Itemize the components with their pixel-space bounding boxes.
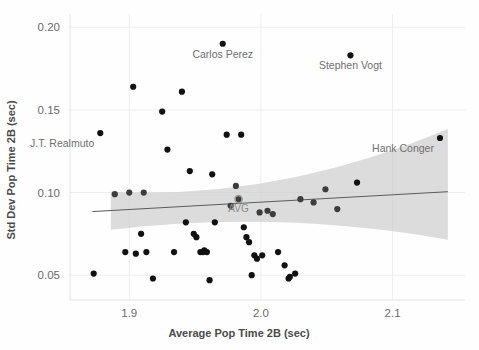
data-point [150, 275, 156, 281]
data-point [292, 270, 298, 276]
y-tick-label: 0.10 [38, 187, 60, 199]
data-point [204, 249, 210, 255]
data-point [143, 249, 149, 255]
data-point [141, 189, 147, 195]
data-point [179, 89, 185, 95]
data-point [257, 209, 263, 215]
y-axis-title: Std Dev Pop Time 2B (sec) [5, 100, 17, 240]
y-tick-label: 0.15 [38, 104, 60, 116]
point-annotation-label: Hank Conger [372, 142, 434, 154]
data-point [287, 274, 293, 280]
data-point [164, 146, 170, 152]
data-point [347, 52, 353, 58]
average-marker-label: AVG [228, 203, 249, 214]
data-point [97, 130, 103, 136]
data-point [437, 135, 443, 141]
data-point [126, 189, 132, 195]
data-point [246, 239, 252, 245]
point-annotation-label: Carlos Perez [192, 48, 253, 60]
x-tick-label: 1.9 [121, 307, 137, 319]
x-tick-label: 2.1 [385, 307, 401, 319]
data-point [354, 180, 360, 186]
point-annotation-label: J.T. Realmuto [30, 137, 94, 149]
x-axis-title: Average Pop Time 2B (sec) [168, 327, 310, 339]
data-point [138, 231, 144, 237]
data-point [233, 183, 239, 189]
data-point [310, 199, 316, 205]
point-labels-group: J.T. RealmutoCarlos PerezStephen VogtHan… [30, 48, 434, 154]
data-point [264, 208, 270, 214]
scatter-chart: AVG J.T. RealmutoCarlos PerezStephen Vog… [0, 0, 479, 350]
data-point [206, 277, 212, 283]
data-point [224, 132, 230, 138]
data-point [159, 108, 165, 114]
data-point [334, 206, 340, 212]
data-point [249, 272, 255, 278]
data-point [241, 224, 247, 230]
data-point [171, 249, 177, 255]
data-point [212, 219, 218, 225]
y-tick-label: 0.05 [38, 269, 60, 281]
data-point [187, 168, 193, 174]
data-point [282, 262, 288, 268]
data-point [238, 132, 244, 138]
point-annotation-label: Stephen Vogt [319, 59, 382, 71]
data-point [183, 219, 189, 225]
data-point [254, 256, 260, 262]
data-point [270, 211, 276, 217]
data-point [122, 249, 128, 255]
data-point [133, 251, 139, 257]
data-point [297, 196, 303, 202]
data-point [209, 171, 215, 177]
data-point [259, 252, 265, 258]
data-point [193, 234, 199, 240]
y-tick-label: 0.20 [38, 21, 60, 33]
data-point [91, 270, 97, 276]
data-point [130, 84, 136, 90]
plot-canvas: AVG J.T. RealmutoCarlos PerezStephen Vog… [0, 0, 479, 350]
data-point [112, 191, 118, 197]
data-point [220, 41, 226, 47]
data-point [275, 249, 281, 255]
x-tick-label: 2.0 [253, 307, 269, 319]
data-point [322, 186, 328, 192]
